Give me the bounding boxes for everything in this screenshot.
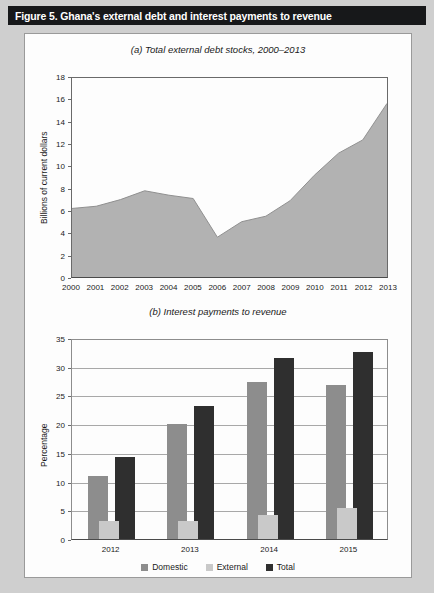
chart-a-x-tick-label: 2013 <box>379 283 397 292</box>
chart-a-area-series <box>72 78 387 277</box>
chart-b-x-tick-label: 2015 <box>339 545 357 554</box>
legend-label-domestic: Domestic <box>152 562 187 572</box>
legend-swatch-external-icon <box>206 564 213 571</box>
chart-b-y-tick-label: 25 <box>43 392 65 401</box>
chart-b-y-tick-label: 5 <box>43 507 65 516</box>
legend-swatch-domestic-icon <box>141 564 148 571</box>
legend-label-external: External <box>217 562 248 572</box>
bar-external-2013 <box>178 521 198 539</box>
chart-b-y-tick-label: 0 <box>43 536 65 545</box>
chart-b-y-tick-mark <box>68 540 71 541</box>
chart-a-plot-area <box>71 77 388 278</box>
bar-total-2013 <box>194 406 214 539</box>
chart-a-x-tick-label: 2002 <box>111 283 129 292</box>
chart-a-x-tick-label: 2010 <box>306 283 324 292</box>
bar-total-2014 <box>274 358 294 539</box>
legend-label-total: Total <box>277 562 295 572</box>
chart-a-x-tick-label: 2006 <box>208 283 226 292</box>
chart-a-y-tick-label: 16 <box>43 95 65 104</box>
legend-item-domestic[interactable]: Domestic <box>141 562 187 572</box>
chart-a-y-tick-label: 2 <box>43 251 65 260</box>
chart-panel: (a) Total external debt stocks, 2000–201… <box>24 33 412 578</box>
chart-a-y-tick-label: 8 <box>43 184 65 193</box>
chart-b-gridline <box>72 368 387 369</box>
chart-a-y-tick-label: 10 <box>43 162 65 171</box>
chart-b-y-tick-label: 20 <box>43 421 65 430</box>
chart-a-x-tick-label: 2005 <box>184 283 202 292</box>
chart-a-y-tick-label: 14 <box>43 117 65 126</box>
chart-a-x-tick-label: 2007 <box>233 283 251 292</box>
figure-root: Figure 5. Ghana's external debt and inte… <box>0 0 434 593</box>
chart-b-legend: DomesticExternalTotal <box>25 562 411 572</box>
figure-title: Figure 5. Ghana's external debt and inte… <box>15 10 332 22</box>
chart-b-bars: (b) Interest payments to revenue Percent… <box>25 306 411 578</box>
chart-b-y-tick-label: 35 <box>43 335 65 344</box>
chart-b-y-tick-label: 30 <box>43 363 65 372</box>
chart-a-y-tick-label: 6 <box>43 207 65 216</box>
chart-a-area: (a) Total external debt stocks, 2000–201… <box>25 44 411 304</box>
chart-a-x-tick-label: 2012 <box>355 283 373 292</box>
bar-external-2015 <box>337 508 357 539</box>
chart-a-title: (a) Total external debt stocks, 2000–201… <box>25 44 411 55</box>
chart-a-y-tick-label: 4 <box>43 229 65 238</box>
chart-b-x-tick-label: 2014 <box>260 545 278 554</box>
legend-item-total[interactable]: Total <box>266 562 295 572</box>
chart-b-plot-area <box>71 339 388 540</box>
chart-a-x-tick-label: 2003 <box>135 283 153 292</box>
chart-b-x-tick-label: 2013 <box>181 545 199 554</box>
chart-b-y-tick-label: 10 <box>43 478 65 487</box>
chart-a-x-tick-label: 2001 <box>86 283 104 292</box>
chart-b-x-tick-label: 2012 <box>102 545 120 554</box>
chart-a-x-tick-label: 2011 <box>331 283 348 292</box>
chart-a-y-tick-label: 12 <box>43 140 65 149</box>
chart-a-y-tick-mark <box>68 278 71 279</box>
chart-a-y-tick-label: 0 <box>43 274 65 283</box>
figure-title-banner: Figure 5. Ghana's external debt and inte… <box>8 6 426 25</box>
legend-swatch-total-icon <box>266 564 273 571</box>
legend-item-external[interactable]: External <box>206 562 248 572</box>
chart-a-x-tick-label: 2008 <box>257 283 275 292</box>
chart-a-x-tick-label: 2000 <box>62 283 80 292</box>
bar-external-2012 <box>99 521 119 539</box>
chart-a-y-tick-label: 18 <box>43 73 65 82</box>
chart-b-y-tick-label: 15 <box>43 449 65 458</box>
chart-a-x-tick-label: 2004 <box>160 283 178 292</box>
bar-external-2014 <box>258 515 278 539</box>
chart-a-x-tick-label: 2009 <box>282 283 300 292</box>
chart-b-title: (b) Interest payments to revenue <box>25 306 411 317</box>
